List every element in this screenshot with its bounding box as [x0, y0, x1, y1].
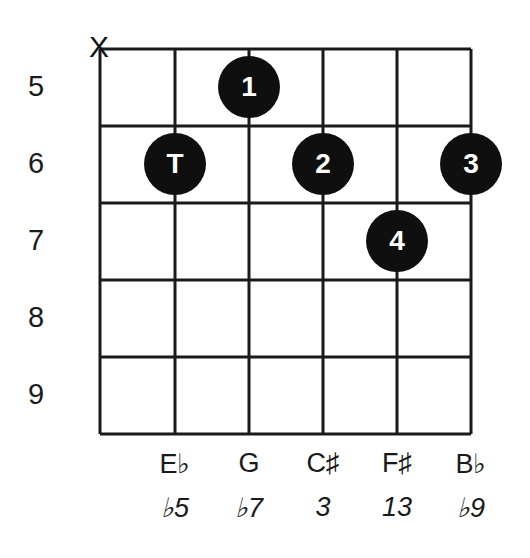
finger-dot-4: 4 [366, 210, 428, 272]
fret-number-7: 7 [16, 224, 56, 257]
fret-number-5: 5 [16, 70, 56, 103]
muted-string-x-icon: X [84, 32, 114, 62]
finger-dot-2: 2 [292, 133, 354, 195]
interval-label: 3 [288, 492, 358, 523]
fret-number-9: 9 [16, 378, 56, 411]
note-label: B♭ [441, 448, 501, 480]
interval-label: ♭9 [436, 492, 506, 524]
note-label: E♭ [145, 448, 205, 480]
interval-label: ♭7 [214, 492, 284, 524]
finger-dot-1: 1 [218, 56, 280, 118]
interval-label: 13 [362, 492, 432, 523]
finger-dot-thumb: T [144, 133, 206, 195]
interval-label: ♭5 [140, 492, 210, 524]
note-label: F♯ [367, 448, 427, 479]
fret-number-8: 8 [16, 301, 56, 334]
note-label: C♯ [293, 448, 353, 479]
finger-dot-3: 3 [440, 133, 502, 195]
note-label: G [219, 448, 279, 479]
fret-number-6: 6 [16, 147, 56, 180]
